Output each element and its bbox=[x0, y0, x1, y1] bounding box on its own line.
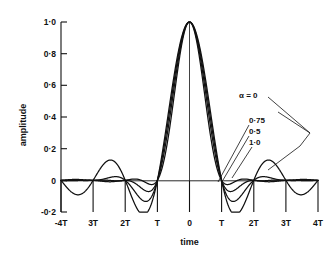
y-tick-label-4: 0·4 bbox=[44, 112, 57, 122]
x-tick-label-8: 3T bbox=[281, 218, 292, 228]
x-tick-label-7: 2T bbox=[249, 218, 260, 228]
y-tick-label-1: 1·0 bbox=[44, 17, 57, 27]
y-tick-label-2: 0·8 bbox=[44, 49, 57, 59]
x-tick-label-9: 4T bbox=[313, 218, 324, 228]
annotation-alpha-075: 0·75 bbox=[249, 116, 266, 125]
y-tick-label-7: -0·2 bbox=[41, 207, 56, 217]
y-tick-label-5: 0·2 bbox=[44, 144, 57, 154]
leader-line-alpha-075 bbox=[218, 125, 249, 182]
leader-lines bbox=[218, 97, 310, 182]
chart-figure: 1·0 0·8 0·6 0·4 0·2 0 -0·2 -4T 3T 2T T 0… bbox=[0, 0, 332, 259]
impulse-response-chart: 1·0 0·8 0·6 0·4 0·2 0 -0·2 -4T 3T 2T T 0… bbox=[0, 0, 332, 259]
annotation-alpha-0: α = 0 bbox=[239, 91, 258, 100]
y-tick-label-3: 0·6 bbox=[44, 80, 57, 90]
leader-line-alpha-10 bbox=[232, 147, 252, 178]
annotation-alpha-05: 0·5 bbox=[249, 127, 261, 136]
x-tick-marks bbox=[61, 181, 318, 212]
y-axis-title: amplitude bbox=[18, 104, 28, 147]
annotation-alpha-10: 1·0 bbox=[249, 138, 261, 147]
x-axis-title: time bbox=[180, 237, 199, 247]
x-tick-label-3: 2T bbox=[120, 218, 131, 228]
leader-line-alpha-0-upper bbox=[278, 112, 310, 133]
x-tick-label-4: T bbox=[155, 218, 161, 228]
leader-line-alpha-0 bbox=[268, 97, 310, 170]
x-tick-label-5: 0 bbox=[187, 218, 192, 228]
x-tick-label-2: 3T bbox=[88, 218, 99, 228]
x-tick-label-6: T bbox=[219, 218, 225, 228]
y-tick-label-6: 0 bbox=[51, 176, 56, 186]
x-tick-label-1: -4T bbox=[55, 218, 69, 228]
